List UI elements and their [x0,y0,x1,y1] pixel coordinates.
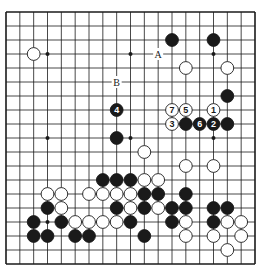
black-stone [207,34,220,47]
black-stone-icon [166,34,179,47]
go-board: AB 4627513 [0,0,261,273]
white-stone [221,62,234,75]
white-stone: 5 [179,104,192,117]
black-stone-icon [138,230,151,243]
move-number: 5 [183,105,188,115]
black-stone [207,202,220,215]
white-stone-icon [235,216,248,229]
black-stone [27,216,40,229]
black-stone [27,230,40,243]
white-stone-icon [221,244,234,257]
black-stone-icon [207,216,220,229]
white-stone [96,188,109,201]
black-stone-icon [221,202,234,215]
move-number: 3 [169,119,174,129]
black-stone [55,216,68,229]
black-stone [41,230,54,243]
white-stone [27,48,40,61]
white-stone [179,230,192,243]
black-stone-icon [27,216,40,229]
white-stone-icon [138,146,151,159]
white-stone-icon [152,174,165,187]
white-stone [69,216,82,229]
star-point-icon [129,136,133,140]
black-stone [179,118,192,131]
black-stone [207,216,220,229]
white-stone-icon [179,62,192,75]
white-stone-icon [207,160,220,173]
white-stone-icon [83,216,96,229]
black-stone-icon [110,174,123,187]
star-point-icon [46,220,50,224]
black-stone-icon [124,174,137,187]
star-point-icon [212,52,216,56]
black-stone-icon [41,230,54,243]
black-stone-icon [124,216,137,229]
black-stone [83,230,96,243]
white-stone-icon [221,216,234,229]
star-point-icon [129,52,133,56]
white-stone-icon [110,188,123,201]
white-stone [138,146,151,159]
white-stone-icon [96,188,109,201]
white-stone-icon [179,230,192,243]
black-stone [138,188,151,201]
black-stone [179,188,192,201]
black-stone [96,174,109,187]
black-stone-icon [138,202,151,215]
black-stone: 2 [207,118,220,131]
white-stone: 7 [166,104,179,117]
black-stone [166,34,179,47]
black-stone: 6 [193,118,206,131]
black-stone-icon [27,230,40,243]
black-stone [110,202,123,215]
black-stone-icon [138,188,151,201]
white-stone-icon [83,188,96,201]
white-stone-icon [55,202,68,215]
white-stone [235,230,248,243]
white-stone-icon [27,48,40,61]
black-stone [179,202,192,215]
black-stone [221,202,234,215]
black-stone-icon [166,216,179,229]
point-label-b: B [113,77,120,88]
black-stone [221,90,234,103]
white-stone [124,188,137,201]
move-number: 4 [114,105,119,115]
black-stone-icon [221,118,234,131]
white-stone [41,188,54,201]
black-stone-icon [55,216,68,229]
black-stone [124,216,137,229]
white-stone [179,216,192,229]
black-stone [152,188,165,201]
white-stone-icon [235,230,248,243]
black-stone-icon [110,132,123,145]
move-number: 6 [197,119,202,129]
star-point-icon [212,136,216,140]
white-stone [96,216,109,229]
white-stone-icon [41,188,54,201]
black-stone-icon [166,202,179,215]
white-stone-icon [110,216,123,229]
stones: 4627513 [27,34,247,257]
move-number: 2 [211,119,216,129]
white-stone [179,160,192,173]
white-stone-icon [55,188,68,201]
white-stone [55,202,68,215]
white-stone-icon [124,188,137,201]
white-stone [207,230,220,243]
white-stone-icon [69,216,82,229]
white-stone [221,216,234,229]
black-stone-icon [83,230,96,243]
white-stone [110,188,123,201]
white-stone [207,160,220,173]
black-stone [221,118,234,131]
white-stone-icon [138,174,151,187]
black-stone [69,230,82,243]
black-stone [138,230,151,243]
black-stone-icon [207,202,220,215]
black-stone-icon [110,202,123,215]
black-stone [110,174,123,187]
white-stone [235,216,248,229]
black-stone-icon [179,188,192,201]
